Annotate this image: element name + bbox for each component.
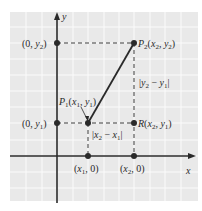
point-x2-0 (131, 153, 137, 159)
y-axis-label: y (61, 11, 67, 22)
diagram-svg: y x (0, y2) P2(x2, y2) |y2 − y1| P1(x1, … (0, 0, 202, 211)
point-r (131, 120, 137, 126)
point-p1 (85, 120, 91, 126)
x-axis-label: x (185, 165, 191, 176)
point-0-y1 (54, 120, 60, 126)
point-p2 (131, 40, 137, 46)
point-0-y2 (54, 40, 60, 46)
point-x1-0 (85, 153, 91, 159)
distance-diagram: y x (0, y2) P2(x2, y2) |y2 − y1| P1(x1, … (0, 0, 202, 211)
